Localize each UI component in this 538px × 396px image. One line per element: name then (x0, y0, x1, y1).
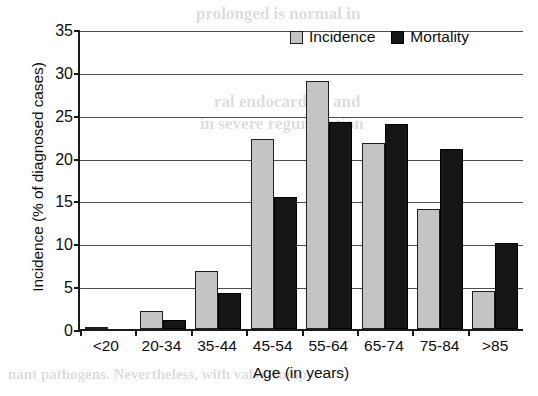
x-axis-tick-label: 35-44 (189, 337, 245, 355)
bar-mortality (218, 293, 241, 329)
bar-incidence (251, 139, 274, 329)
bar-group (80, 31, 135, 329)
y-axis-tick-label: 15 (55, 193, 73, 211)
bar-group (302, 31, 357, 329)
bar-mortality (440, 149, 463, 329)
legend-entry-mortality: Mortality (391, 28, 469, 46)
bar-group (357, 31, 412, 329)
x-axis-tick-mark (246, 329, 248, 336)
x-axis-tick-label: 75-84 (412, 337, 468, 355)
x-axis-tick-label: 45-54 (245, 337, 301, 355)
bar-chart-figure: Incidence (% of diagnosed cases) 0510152… (0, 0, 538, 396)
bar-mortality (274, 197, 297, 329)
x-axis-tick-mark (302, 329, 304, 336)
x-axis-tick-mark (80, 329, 82, 336)
x-axis-tick-label: >85 (467, 337, 523, 355)
chart-legend: IncidenceMortality (290, 28, 469, 46)
x-axis-tick-mark (468, 329, 470, 336)
x-axis-tick-label: 65-74 (356, 337, 412, 355)
y-axis-tick-label: 10 (55, 236, 73, 254)
x-axis-tick-label: 55-64 (301, 337, 357, 355)
bar-mortality (329, 122, 352, 329)
bar-incidence (140, 311, 163, 329)
legend-entry-incidence: Incidence (290, 28, 375, 46)
x-axis-tick-mark (357, 329, 359, 336)
legend-label: Mortality (410, 28, 469, 46)
bar-incidence (362, 143, 385, 329)
bar-group (412, 31, 467, 329)
legend-label: Incidence (309, 28, 375, 46)
bar-incidence (417, 209, 440, 329)
bar-group (246, 31, 301, 329)
bar-mortality (495, 243, 518, 329)
y-axis-tick-label: 25 (55, 107, 73, 125)
x-axis-tick-mark (135, 329, 137, 336)
y-axis-tick-label: 20 (55, 150, 73, 168)
x-axis-title: Age (in years) (78, 364, 524, 382)
x-axis-tick-label: <20 (78, 337, 134, 355)
y-axis-tick-label: 30 (55, 64, 73, 82)
legend-swatch-mortality-icon (391, 31, 404, 44)
x-axis-tick-labels: <2020-3435-4445-5455-6465-7475-84>85 (78, 337, 523, 355)
legend-swatch-incidence-icon (290, 31, 303, 44)
x-axis-tick-label: 20-34 (134, 337, 190, 355)
y-axis-title: Incidence (% of diagnosed cases) (29, 27, 47, 327)
bar-incidence (472, 291, 495, 329)
y-axis-tick-label: 35 (55, 22, 73, 40)
x-axis-tick-mark (412, 329, 414, 336)
bar-group (135, 31, 190, 329)
bar-groups (80, 31, 523, 329)
bar-incidence (306, 81, 329, 329)
x-axis-tick-mark (191, 329, 193, 336)
bar-incidence (85, 327, 108, 329)
y-axis-tick-label: 0 (64, 322, 73, 340)
bar-mortality (385, 124, 408, 329)
bar-group (468, 31, 523, 329)
bar-mortality (163, 320, 186, 329)
y-axis-tick-label: 5 (64, 279, 73, 297)
bar-incidence (195, 271, 218, 329)
bar-group (191, 31, 246, 329)
plot-area: 05101520253035 (78, 31, 523, 331)
